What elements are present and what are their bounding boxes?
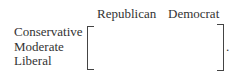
matrix-body-empty — [95, 27, 215, 68]
row-label-moderate: Moderate — [14, 40, 64, 53]
left-bracket — [87, 26, 94, 70]
right-bracket — [217, 24, 224, 71]
trailing-period: . — [226, 40, 229, 53]
row-label-conservative: Conservative — [14, 25, 83, 38]
column-header-republican: Republican — [97, 7, 156, 20]
column-header-democrat: Democrat — [168, 7, 219, 20]
row-label-liberal: Liberal — [14, 54, 52, 67]
